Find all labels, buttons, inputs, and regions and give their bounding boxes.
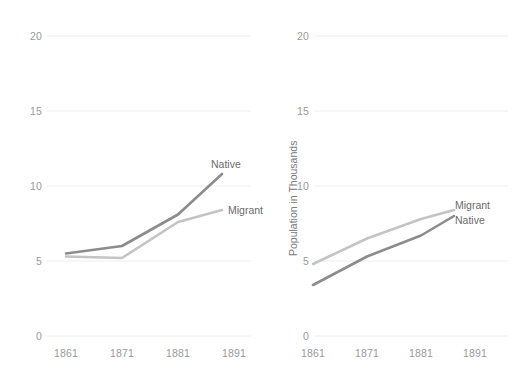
left-chart-xtick-1891: 1891	[216, 348, 252, 359]
right-chart-xtick-1861: 1861	[295, 348, 331, 359]
right-chart-gridlines	[314, 36, 508, 336]
right-chart-ytick-15: 15	[287, 106, 309, 117]
left-chart-xtick-1881: 1881	[160, 348, 196, 359]
right-chart-xtick-1881: 1881	[403, 348, 439, 359]
right-chart-ytick-5: 5	[287, 256, 309, 267]
right-chart-ytick-0: 0	[287, 331, 309, 342]
left-chart-label-native: Native	[211, 159, 241, 170]
right-chart-ytick-10: 10	[287, 181, 309, 192]
right-chart-yaxis-title: Population in Thousands	[288, 141, 299, 256]
left-chart-xtick-1871: 1871	[104, 348, 140, 359]
left-chart-gridlines	[47, 36, 251, 336]
chart-page: 20 15 10 5 0 1861 1871 1881 1891 Native …	[0, 0, 514, 389]
left-chart-ytick-5: 5	[20, 256, 42, 267]
right-chart-series-migrant	[313, 210, 454, 264]
left-chart-ytick-15: 15	[20, 106, 42, 117]
right-chart-ytick-20: 20	[287, 31, 309, 42]
left-chart-xtick-1861: 1861	[48, 348, 84, 359]
right-chart-label-migrant: Migrant	[455, 200, 490, 211]
left-chart-ytick-0: 0	[20, 331, 42, 342]
right-chart-label-native: Native	[455, 215, 485, 226]
right-chart-series-native	[313, 216, 454, 285]
left-chart-ytick-10: 10	[20, 181, 42, 192]
left-line-chart: 20 15 10 5 0 1861 1871 1881 1891 Native …	[0, 0, 257, 389]
right-chart-xtick-1871: 1871	[349, 348, 385, 359]
right-chart-xtick-1891: 1891	[457, 348, 493, 359]
left-chart-ytick-20: 20	[20, 31, 42, 42]
right-line-chart: Population in Thousands 20 15 10 5 0 186…	[257, 0, 514, 389]
